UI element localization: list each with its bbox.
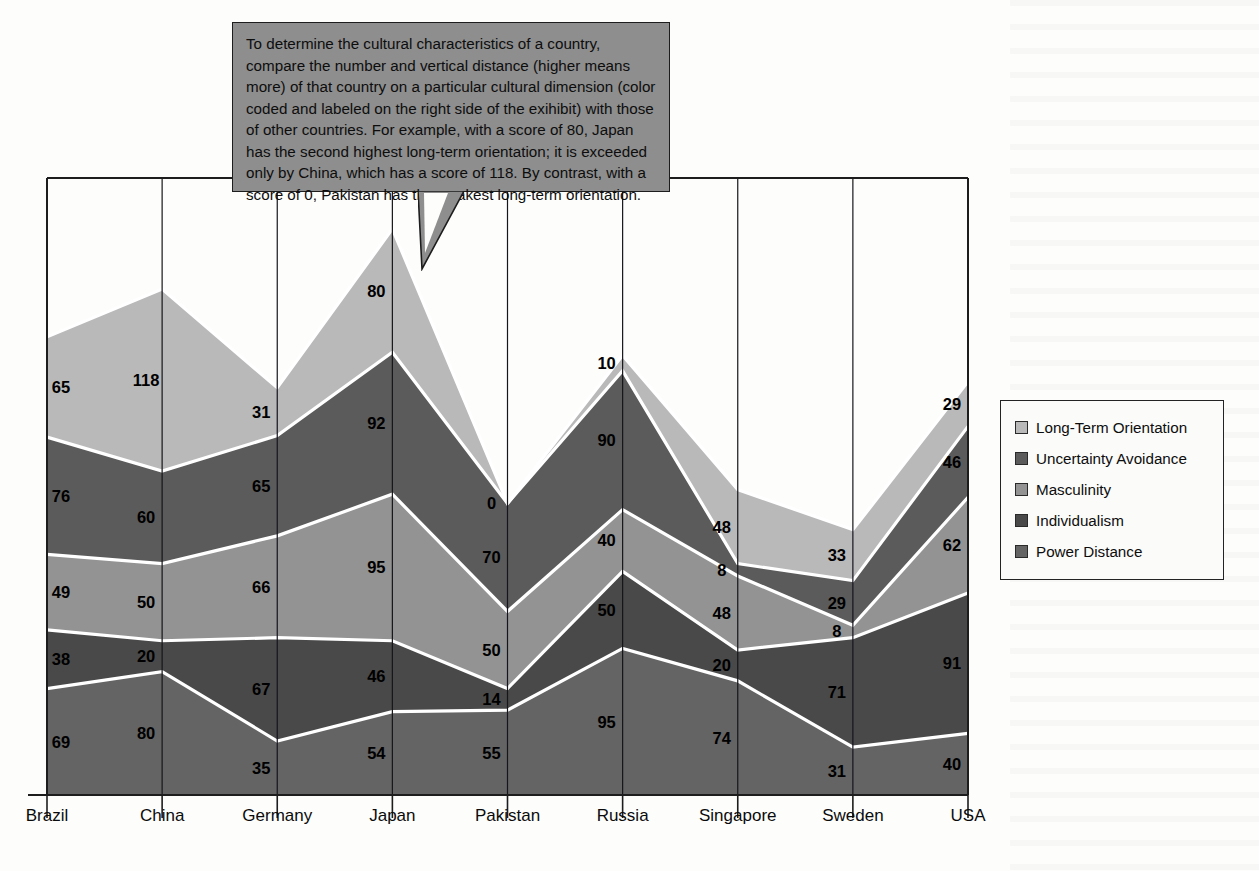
legend-item-label: Uncertainty Avoidance <box>1036 450 1187 467</box>
legend-swatch-icon <box>1015 452 1028 465</box>
legend-item-uncertainty-avoidance: Uncertainty Avoidance <box>1015 443 1223 474</box>
x-axis-label-usa: USA <box>951 806 986 826</box>
x-axis-label-sweden: Sweden <box>822 806 883 826</box>
x-axis-label-japan: Japan <box>369 806 415 826</box>
legend-item-label: Masculinity <box>1036 481 1111 498</box>
legend-item-individualism: Individualism <box>1015 505 1223 536</box>
legend-swatch-icon <box>1015 514 1028 527</box>
legend-item-long-term-orientation: Long-Term Orientation <box>1015 412 1223 443</box>
legend-item-power-distance: Power Distance <box>1015 536 1223 567</box>
x-axis-label-singapore: Singapore <box>699 806 777 826</box>
legend-item-masculinity: Masculinity <box>1015 474 1223 505</box>
x-axis-label-germany: Germany <box>242 806 312 826</box>
legend-item-label: Power Distance <box>1036 543 1142 560</box>
legend-item-label: Individualism <box>1036 512 1124 529</box>
legend-item-label: Long-Term Orientation <box>1036 419 1187 436</box>
x-axis-label-russia: Russia <box>597 806 649 826</box>
exhibit-figure: BrazilChinaGermanyJapanPakistanRussiaSin… <box>0 0 1259 871</box>
x-axis-label-brazil: Brazil <box>26 806 69 826</box>
x-axis-label-china: China <box>140 806 184 826</box>
annotation-callout: To determine the cultural characteristic… <box>232 22 670 192</box>
x-axis-label-pakistan: Pakistan <box>475 806 540 826</box>
annotation-callout-text: To determine the cultural characteristic… <box>246 35 655 203</box>
chart-legend: Long-Term OrientationUncertainty Avoidan… <box>1000 400 1224 580</box>
annotation-callout-tail <box>418 191 518 271</box>
legend-swatch-icon <box>1015 545 1028 558</box>
legend-swatch-icon <box>1015 421 1028 434</box>
legend-swatch-icon <box>1015 483 1028 496</box>
